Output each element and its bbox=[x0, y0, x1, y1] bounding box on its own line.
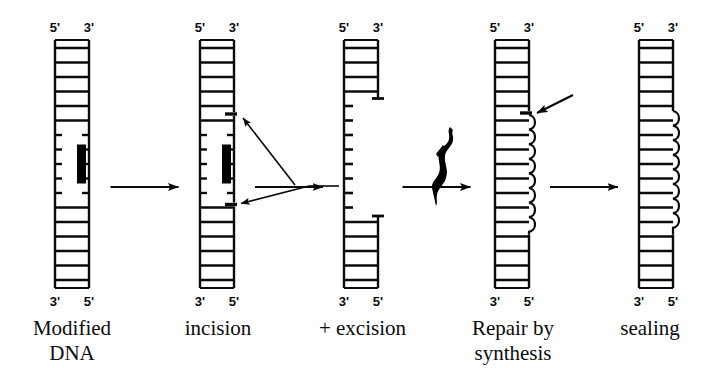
label-bottom-left: 3' bbox=[339, 294, 349, 309]
label-bottom-right: 5' bbox=[373, 294, 383, 309]
caption-sealing: sealing bbox=[588, 316, 712, 341]
polymerase-blob bbox=[432, 127, 453, 206]
label-top-right: 3' bbox=[668, 20, 678, 35]
label-bottom-left: 3' bbox=[490, 294, 500, 309]
stage-incision: 5'3'3'5' bbox=[195, 20, 239, 309]
lesion-marker bbox=[77, 145, 86, 184]
sealed-repaired-strand bbox=[673, 111, 679, 235]
repair-nick-pointer bbox=[537, 95, 573, 113]
label-top-right: 3' bbox=[524, 20, 534, 35]
label-bottom-right: 5' bbox=[84, 294, 94, 309]
lesion-marker bbox=[222, 145, 231, 184]
stage-repair-by-synthesis: 5'3'3'5' bbox=[490, 20, 535, 309]
label-bottom-left: 3' bbox=[195, 294, 205, 309]
label-bottom-right: 5' bbox=[524, 294, 534, 309]
label-top-left: 5' bbox=[634, 20, 644, 35]
incision-pointer-lower bbox=[241, 186, 309, 204]
stage-modified-dna: 5'3'3'5' bbox=[50, 20, 94, 309]
label-top-right: 3' bbox=[373, 20, 383, 35]
caption-excision: + excision bbox=[290, 316, 435, 341]
label-bottom-left: 3' bbox=[634, 294, 644, 309]
label-bottom-right: 5' bbox=[229, 294, 239, 309]
stage-excision: 5'3'3'5' bbox=[339, 20, 384, 309]
figure-canvas: 5'3'3'5'5'3'3'5'5'3'3'5'5'3'3'5'5'3'3'5'… bbox=[0, 0, 712, 390]
label-bottom-left: 3' bbox=[50, 294, 60, 309]
label-top-left: 5' bbox=[339, 20, 349, 35]
stage-group: 5'3'3'5'5'3'3'5'5'3'3'5'5'3'3'5'5'3'3'5' bbox=[50, 20, 679, 309]
incision-pointer-upper bbox=[243, 118, 295, 185]
caption-modified-dna: Modified DNA bbox=[4, 316, 140, 366]
label-top-left: 5' bbox=[195, 20, 205, 35]
label-top-left: 5' bbox=[50, 20, 60, 35]
label-top-right: 3' bbox=[84, 20, 94, 35]
caption-repair-by-synthesis: Repair by synthesis bbox=[443, 316, 583, 366]
new-synthesised-strand bbox=[529, 115, 535, 235]
label-top-left: 5' bbox=[490, 20, 500, 35]
caption-incision: incision bbox=[150, 316, 286, 341]
label-bottom-right: 5' bbox=[668, 294, 678, 309]
stage-sealing: 5'3'3'5' bbox=[634, 20, 679, 309]
label-top-right: 3' bbox=[229, 20, 239, 35]
